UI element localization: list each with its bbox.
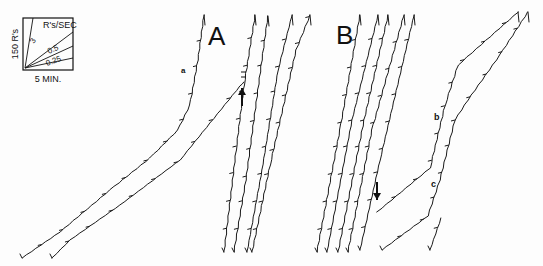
cumulative-record-figure: R's/SEC30.50.25150 R's5 MIN. ABabc <box>0 0 543 266</box>
trace-A-steep-1 <box>222 15 256 252</box>
legend-title: R's/SEC <box>43 20 77 30</box>
arrow-down-B-icon <box>373 182 381 200</box>
panel-label-B: B <box>336 20 353 50</box>
trace-B-curve-c <box>380 12 529 250</box>
annotation-b: b <box>434 112 440 122</box>
cumulative-traces <box>20 12 529 258</box>
rate-legend: R's/SEC30.50.25150 R's5 MIN. <box>10 18 77 84</box>
trace-A-curve-2 <box>50 82 244 258</box>
arrow-up-A-icon <box>238 88 246 106</box>
legend-rate-3: 3 <box>28 36 38 45</box>
figure-labels: ABabc <box>181 20 440 189</box>
trace-B-fragment <box>428 218 441 250</box>
annotation-c: c <box>431 179 436 189</box>
trace-B-curve-b <box>377 12 519 212</box>
trace-B-steep-5 <box>358 15 415 250</box>
legend-x-label: 5 MIN. <box>35 74 62 84</box>
panel-label-A: A <box>208 21 226 51</box>
legend-rate-0-25: 0.25 <box>45 54 63 68</box>
trace-B-steep-3 <box>336 15 389 252</box>
figure-canvas: R's/SEC30.50.25150 R's5 MIN. ABabc <box>0 0 543 266</box>
trace-B-steep-4 <box>346 15 405 252</box>
trace-A-steep-4 <box>250 15 311 252</box>
trace-B-steep-1 <box>315 15 361 252</box>
annotation-a: a <box>181 66 186 75</box>
trace-A-steep-2 <box>232 16 269 252</box>
legend-y-label: 150 R's <box>10 28 20 59</box>
